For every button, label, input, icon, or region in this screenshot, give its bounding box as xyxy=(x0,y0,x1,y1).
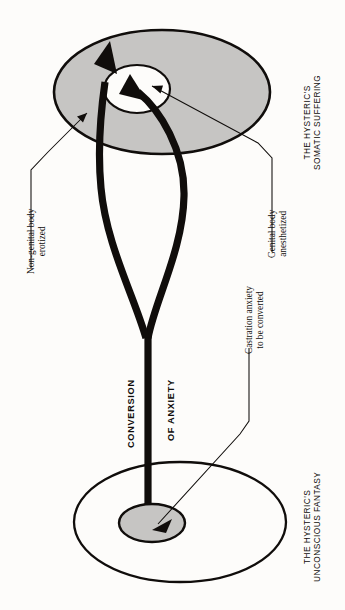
genital-body-label: Genital body anesthetized xyxy=(267,210,289,258)
castration-line2: to be converted xyxy=(255,286,266,354)
fantasy-heading-line1: THE HYSTERIC'S xyxy=(302,490,312,564)
castration-anxiety-core xyxy=(119,504,185,542)
somatic-heading-line1: THE HYSTERIC'S xyxy=(302,85,312,159)
nongenital-line1: Non-genital body xyxy=(26,209,36,274)
nongenital-line2: erotized xyxy=(37,209,48,274)
fantasy-heading-line2: UNCONSCIOUS FANTASY xyxy=(313,472,323,582)
unconscious-fantasy-heading: THE HYSTERIC'S UNCONSCIOUS FANTASY xyxy=(303,472,323,582)
somatic-suffering-heading: THE HYSTERIC'S SOMATIC SUFFERING xyxy=(303,75,323,170)
nongenital-body-label: Non-genital body erotized xyxy=(26,209,48,274)
castration-line1: Castration anxiety xyxy=(244,286,254,354)
conversion-label: CONVERSION xyxy=(126,379,137,448)
somatic-heading-line2: SOMATIC SUFFERING xyxy=(313,75,323,170)
genital-line2: anesthetized xyxy=(278,210,289,258)
of-anxiety-label: OF ANXIETY xyxy=(166,379,177,441)
conversion-text: CONVERSION xyxy=(126,379,136,448)
castration-anxiety-label: Castration anxiety to be converted xyxy=(244,286,266,354)
conversion-diagram xyxy=(0,0,345,610)
genital-line1: Genital body xyxy=(267,210,277,258)
of-anxiety-text: OF ANXIETY xyxy=(166,379,176,441)
